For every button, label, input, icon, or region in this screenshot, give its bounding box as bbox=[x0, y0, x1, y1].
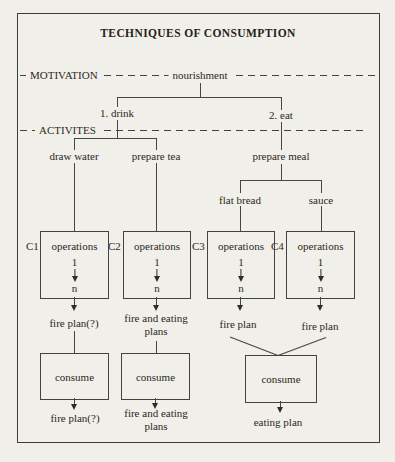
prepare-tea-node: prepare tea bbox=[132, 150, 181, 163]
prepare-meal-connector bbox=[281, 164, 282, 180]
op-end-label: n bbox=[238, 282, 244, 294]
sauce-to-c4-line bbox=[321, 206, 322, 231]
sauce-stub-line bbox=[321, 180, 322, 193]
consume-box-c2: consume bbox=[121, 353, 190, 400]
drink-eat-branch-line bbox=[117, 97, 282, 98]
activities-level-label: ACTIVITES bbox=[35, 124, 100, 137]
figure-title: TECHNIQUES OF CONSUMPTION bbox=[17, 27, 379, 39]
operations-label: operations bbox=[218, 240, 264, 252]
down-arrowhead-icon bbox=[71, 404, 77, 410]
c2-plan-label: fire and eating plans bbox=[114, 312, 198, 338]
c1-final-plan-label: fire plan(?) bbox=[50, 412, 99, 425]
consume-box-c1: consume bbox=[40, 353, 109, 400]
chain-id-c1: C1 bbox=[26, 240, 39, 253]
down-arrowhead-icon bbox=[153, 305, 159, 311]
consume-label: consume bbox=[136, 371, 175, 383]
drink-stub-line bbox=[117, 97, 118, 107]
nourishment-connector bbox=[200, 83, 201, 97]
down-arrowhead-icon bbox=[237, 305, 243, 311]
down-arrowhead-icon bbox=[317, 305, 323, 311]
prepare-tea-stub-line bbox=[156, 138, 157, 150]
eat-node: 2. eat bbox=[269, 109, 293, 122]
draw-water-node: draw water bbox=[49, 150, 98, 163]
c2-final-plan-label: fire and eating plans bbox=[114, 407, 198, 433]
eat-connector bbox=[281, 122, 282, 150]
chain-id-c2: C2 bbox=[108, 240, 121, 253]
down-arrowhead-icon bbox=[71, 305, 77, 311]
operations-label: operations bbox=[52, 240, 98, 252]
operations-box-c4: operations 1 n bbox=[286, 231, 355, 299]
c1-plan-label: fire plan(?) bbox=[49, 317, 98, 330]
draw-water-stub-line bbox=[74, 138, 75, 150]
motivation-level-label: MOTIVATION bbox=[26, 69, 102, 82]
nourishment-node: nourishment bbox=[169, 69, 232, 82]
prepare-tea-to-c2-line bbox=[156, 163, 157, 231]
merged-final-plan-label: eating plan bbox=[254, 416, 303, 429]
drink-node: 1. drink bbox=[100, 107, 134, 120]
operations-box-c2: operations 1 n bbox=[123, 231, 191, 299]
chain-id-c3: C3 bbox=[192, 240, 205, 253]
op-end-label: n bbox=[318, 282, 324, 294]
flat-bread-stub-line bbox=[240, 180, 241, 193]
op-start-label: 1 bbox=[318, 256, 324, 268]
c4-plan-label: fire plan bbox=[302, 320, 339, 333]
operations-box-c3: operations 1 n bbox=[207, 231, 275, 299]
drink-connector bbox=[117, 120, 118, 138]
drink-sub-branch-line bbox=[74, 138, 157, 139]
down-arrowhead-icon bbox=[277, 407, 283, 413]
prepare-meal-node: prepare meal bbox=[252, 150, 309, 163]
op-start-label: 1 bbox=[238, 256, 244, 268]
op-start-label: 1 bbox=[72, 256, 78, 268]
figure-canvas: TECHNIQUES OF CONSUMPTION MOTIVATION nou… bbox=[0, 0, 395, 462]
meal-sub-branch-line bbox=[240, 180, 321, 181]
op-start-label: 1 bbox=[154, 256, 160, 268]
operations-box-c1: operations 1 n bbox=[40, 231, 109, 299]
consume-box-merged: consume bbox=[245, 355, 317, 403]
operations-label: operations bbox=[134, 240, 180, 252]
flat-bread-to-c3-line bbox=[240, 206, 241, 231]
op-end-label: n bbox=[72, 282, 78, 294]
draw-water-to-c1-line bbox=[74, 163, 75, 231]
c2-plan-to-consume-line bbox=[156, 341, 157, 353]
operations-label: operations bbox=[298, 240, 344, 252]
consume-label: consume bbox=[55, 371, 94, 383]
c3-plan-label: fire plan bbox=[220, 318, 257, 331]
op-end-label: n bbox=[154, 282, 160, 294]
consume-label: consume bbox=[261, 373, 300, 385]
c1-plan-to-consume-line bbox=[74, 331, 75, 353]
